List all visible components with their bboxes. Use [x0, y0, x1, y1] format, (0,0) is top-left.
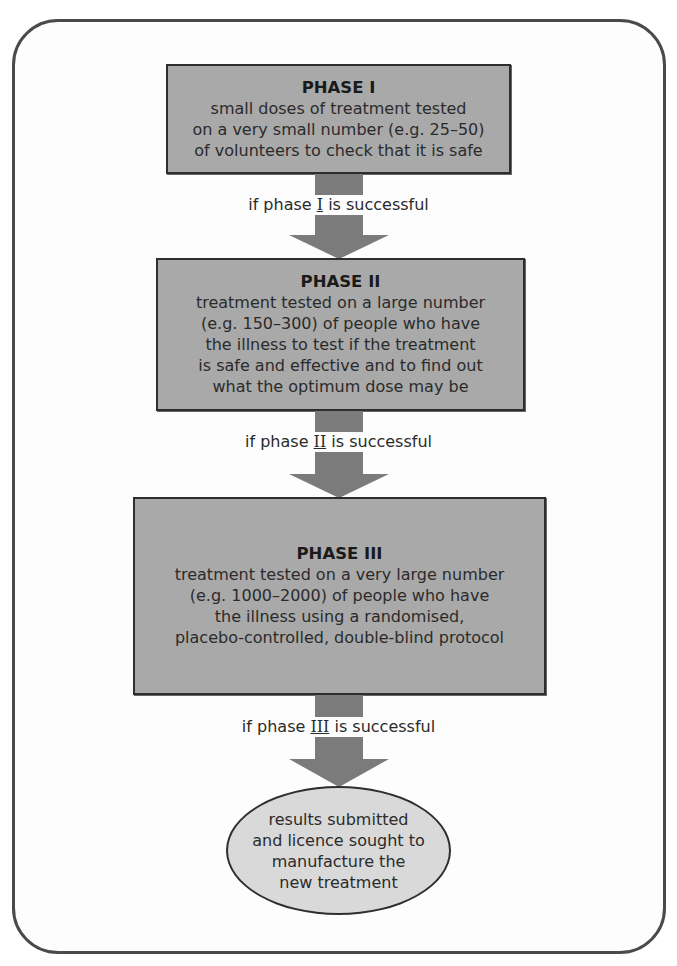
phase-3-title: PHASE III — [297, 544, 383, 564]
arrow-3-shaft-top — [315, 695, 363, 717]
arrow-3-head-icon — [289, 759, 389, 787]
arrow-2-shaft-top — [315, 411, 363, 432]
transition-2-suffix: is successful — [326, 432, 432, 451]
transition-3-suffix: is successful — [329, 717, 435, 736]
transition-3-prefix: if phase — [242, 717, 311, 736]
arrow-1-shaft-top — [315, 174, 363, 195]
phase-2-description: treatment tested on a large number (e.g.… — [196, 292, 485, 397]
transition-3-label: if phase III is successful — [0, 717, 677, 737]
transition-1-label: if phase I is successful — [0, 195, 677, 215]
arrow-2-shaft-bottom — [315, 452, 363, 474]
phase-2-title: PHASE II — [301, 272, 381, 292]
arrow-2-head-icon — [289, 474, 389, 498]
transition-2-prefix: if phase — [245, 432, 314, 451]
phase-2-box: PHASE II treatment tested on a large num… — [156, 258, 525, 411]
outcome-description: results submitted and licence sought to … — [252, 809, 425, 893]
transition-2-label: if phase II is successful — [0, 432, 677, 452]
phase-1-title: PHASE I — [302, 78, 376, 98]
phase-1-box: PHASE I small doses of treatment tested … — [166, 64, 511, 174]
arrow-3-shaft-bottom — [315, 737, 363, 759]
arrow-1-shaft-bottom — [315, 215, 363, 235]
phase-3-box: PHASE III treatment tested on a very lar… — [133, 497, 546, 695]
transition-1-prefix: if phase — [248, 195, 317, 214]
outcome-ellipse: results submitted and licence sought to … — [226, 786, 451, 915]
phase-3-description: treatment tested on a very large number … — [175, 564, 505, 648]
transition-3-numeral: III — [310, 717, 329, 736]
transition-1-suffix: is successful — [323, 195, 429, 214]
arrow-1-head-icon — [289, 235, 389, 259]
phase-1-description: small doses of treatment tested on a ver… — [192, 98, 484, 161]
transition-2-numeral: II — [314, 432, 327, 451]
